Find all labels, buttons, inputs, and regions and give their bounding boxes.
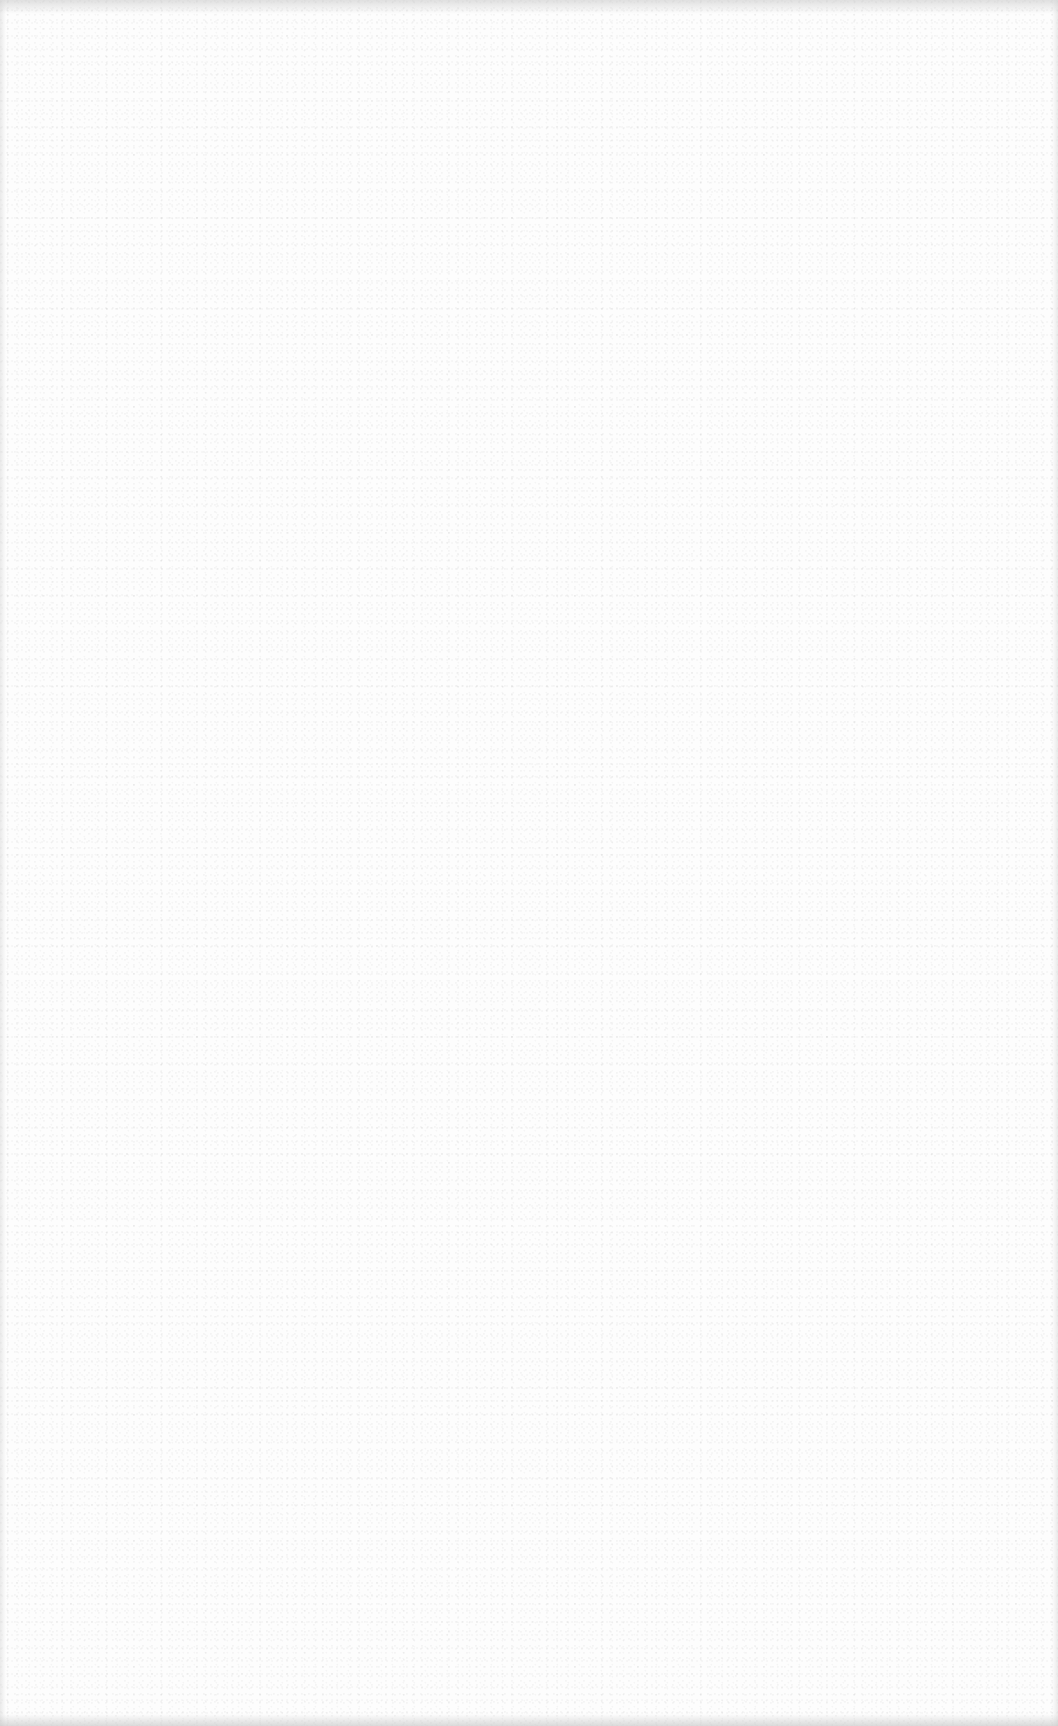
- left-edge-shadow: [0, 0, 6, 1726]
- bottom-edge-shadow: [0, 1714, 1058, 1726]
- right-edge-shadow: [1052, 0, 1058, 1726]
- blank-paper-surface: [0, 0, 1058, 1726]
- top-edge-shadow: [0, 0, 1058, 14]
